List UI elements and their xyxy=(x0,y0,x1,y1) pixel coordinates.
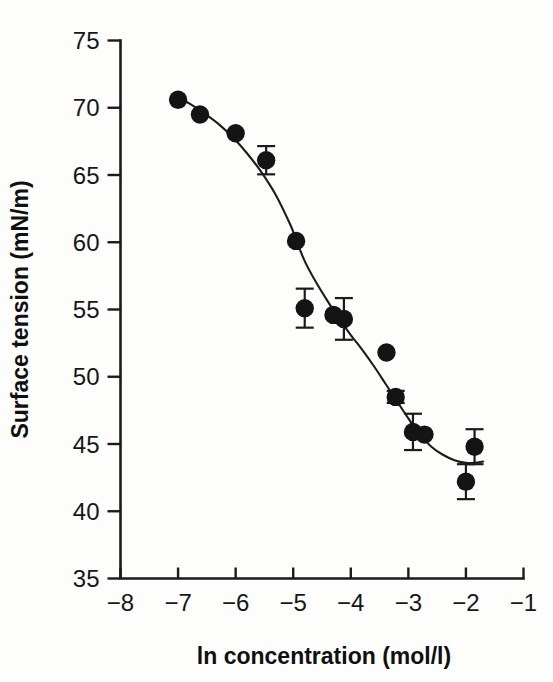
x-tick-label: −2 xyxy=(452,589,479,616)
data-point-markers xyxy=(169,90,484,490)
y-axis-ticks xyxy=(108,41,121,579)
axis-lines xyxy=(121,41,524,579)
plot-frame xyxy=(121,41,524,579)
data-point-marker xyxy=(169,90,187,108)
chart-figure: −8−7−6−5−4−3−2−1 354045505560657075 ln c… xyxy=(0,0,553,682)
y-tick-label: 40 xyxy=(73,498,100,525)
x-tick-label: −3 xyxy=(395,589,422,616)
x-axis-title: ln concentration (mol/l) xyxy=(197,643,451,669)
y-tick-label: 55 xyxy=(73,296,100,323)
x-tick-label: −7 xyxy=(164,589,191,616)
fit-curve xyxy=(175,96,483,463)
x-axis-ticks xyxy=(121,568,524,579)
data-point-marker xyxy=(226,124,244,142)
data-point-marker xyxy=(335,310,353,328)
x-tick-label: −6 xyxy=(222,589,249,616)
error-bars xyxy=(257,146,483,499)
y-tick-label: 60 xyxy=(73,229,100,256)
data-point-marker xyxy=(386,388,404,406)
x-tick-label: −5 xyxy=(280,589,307,616)
data-point-marker xyxy=(257,151,275,169)
fit-curve-path xyxy=(175,96,483,463)
data-point-marker xyxy=(296,299,314,317)
data-point-marker xyxy=(377,343,395,361)
y-tick-label: 35 xyxy=(73,565,100,592)
data-point-marker xyxy=(415,425,433,443)
x-tick-label: −4 xyxy=(337,589,364,616)
y-tick-label: 50 xyxy=(73,363,100,390)
data-point-marker xyxy=(465,437,483,455)
surface-tension-scatter-plot: −8−7−6−5−4−3−2−1 354045505560657075 ln c… xyxy=(0,0,553,682)
y-tick-label: 70 xyxy=(73,94,100,121)
y-tick-label: 75 xyxy=(73,27,100,54)
data-point-marker xyxy=(287,232,305,250)
data-point-marker xyxy=(457,472,475,490)
x-tick-label: −1 xyxy=(510,589,537,616)
y-axis-title: Surface tension (mN/m) xyxy=(7,180,33,438)
y-tick-label: 45 xyxy=(73,431,100,458)
y-axis-tick-labels: 354045505560657075 xyxy=(73,27,100,592)
y-tick-label: 65 xyxy=(73,162,100,189)
x-tick-label: −8 xyxy=(107,589,134,616)
data-point-marker xyxy=(191,105,209,123)
x-axis-tick-labels: −8−7−6−5−4−3−2−1 xyxy=(107,589,537,616)
